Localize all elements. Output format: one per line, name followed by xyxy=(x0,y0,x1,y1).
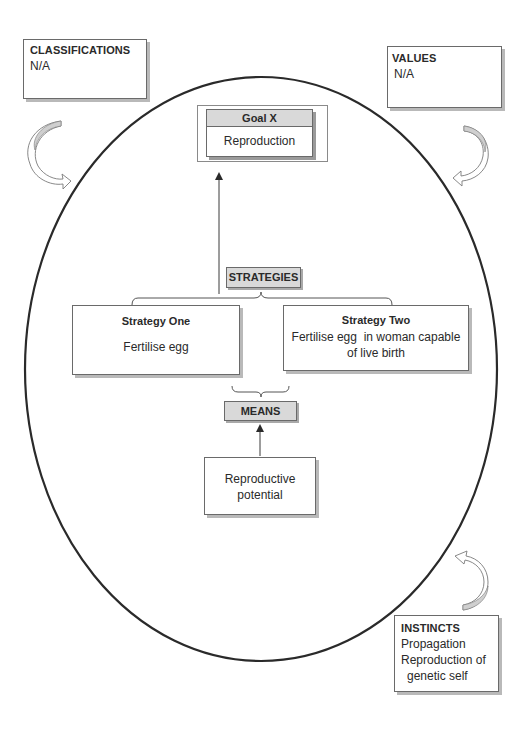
values-value: N/A xyxy=(392,66,497,82)
instincts-title: INSTINCTS xyxy=(401,622,492,634)
means-brace xyxy=(232,386,289,397)
reproductive-potential-box: Reproductive potential xyxy=(204,457,316,515)
goal-body: Reproduction xyxy=(207,127,312,155)
instincts-line-2: Reproduction of xyxy=(401,652,492,668)
strategy-two-text-line-2: of live birth xyxy=(284,345,468,361)
strategy-one-text: Fertilise egg xyxy=(73,339,239,355)
classifications-box: CLASSIFICATIONS N/A xyxy=(23,39,147,99)
values-title: VALUES xyxy=(392,52,497,64)
strategies-brace xyxy=(132,292,392,305)
curved-arrow-instincts-icon xyxy=(455,551,488,610)
strategy-two-box: Strategy Two Fertilise egg in woman capa… xyxy=(283,305,469,371)
instincts-box: INSTINCTS Propagation Reproduction of ge… xyxy=(394,615,499,692)
classifications-value: N/A xyxy=(30,58,140,74)
reproductive-potential-line-2: potential xyxy=(205,487,315,503)
instincts-line-3: genetic self xyxy=(401,668,492,684)
strategy-one-box: Strategy One Fertilise egg xyxy=(72,305,240,375)
strategy-one-title: Strategy One xyxy=(73,315,239,327)
goal-frame: Goal X Reproduction xyxy=(197,105,328,162)
instincts-line-1: Propagation xyxy=(401,636,492,652)
strategies-label: STRATEGIES xyxy=(226,267,301,288)
strategy-two-title: Strategy Two xyxy=(284,314,468,326)
classifications-title: CLASSIFICATIONS xyxy=(30,44,140,56)
goal-header: Goal X xyxy=(207,110,312,127)
curved-arrow-values-icon xyxy=(453,126,488,186)
strategy-two-text-line-1: Fertilise egg in woman capable xyxy=(284,329,468,345)
means-label: MEANS xyxy=(224,401,297,421)
curved-arrow-classifications-icon xyxy=(28,121,71,189)
values-box: VALUES N/A xyxy=(387,46,502,108)
goal-box: Goal X Reproduction xyxy=(206,109,313,157)
reproductive-potential-line-1: Reproductive xyxy=(205,471,315,487)
